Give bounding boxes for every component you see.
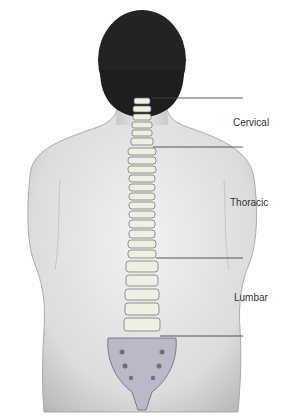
label-cervical: Cervical — [233, 117, 269, 128]
spine-diagram: Cervical Thoracic Lumbar — [0, 0, 283, 419]
label-thoracic: Thoracic — [230, 197, 268, 208]
label-lumbar: Lumbar — [234, 292, 268, 303]
back-illustration — [0, 0, 283, 419]
